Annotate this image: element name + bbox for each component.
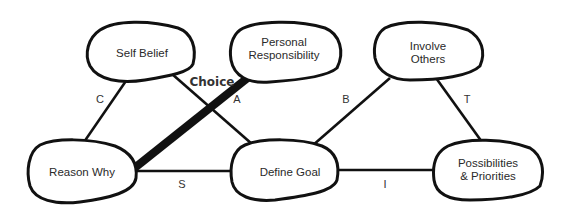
edge-label-t: T: [464, 93, 471, 105]
node-involve-others: Involve Others: [374, 22, 482, 80]
edge-label-b: B: [342, 93, 349, 105]
node-label: Others: [411, 53, 446, 65]
node-self-belief: Self Belief: [87, 22, 194, 81]
node-label: Personal: [261, 36, 306, 48]
node-label: Define Goal: [260, 166, 321, 178]
node-label: Self Belief: [116, 47, 169, 59]
edge-label-c: C: [96, 93, 104, 105]
edge-involve-others-possibilities: [436, 78, 482, 142]
node-personal-responsibility: Personal Responsibility: [230, 22, 340, 82]
edge-label-a: A: [233, 93, 241, 105]
node-label: Reason Why: [49, 166, 115, 178]
node-define-goal: Define Goal: [231, 140, 338, 201]
edge-label-choice: Choice: [190, 75, 235, 89]
node-label: & Priorities: [460, 170, 516, 182]
edge-self-belief-reason-why: [84, 78, 128, 142]
node-possibilities-priorities: Possibilities & Priorities: [434, 140, 543, 200]
node-reason-why: Reason Why: [28, 140, 136, 203]
node-label: Involve: [410, 40, 446, 52]
node-label: Responsibility: [249, 49, 320, 61]
edge-define-goal-involve-others: [312, 78, 390, 146]
coaching-model-diagram: Self Belief Personal Responsibility Invo…: [0, 0, 570, 214]
edge-label-i: I: [383, 178, 386, 190]
edge-label-s: S: [178, 178, 185, 190]
node-label: Possibilities: [458, 157, 518, 169]
